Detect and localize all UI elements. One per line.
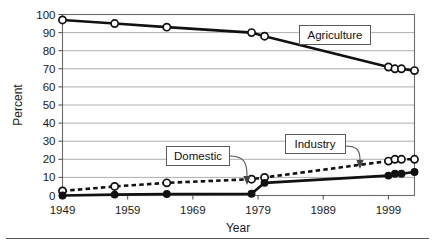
- y-tick-label: 90: [43, 27, 56, 39]
- data-point: [111, 191, 117, 197]
- agriculture-callout-label: Agriculture: [308, 29, 363, 41]
- data-point: [411, 169, 417, 175]
- data-point: [398, 156, 405, 163]
- x-tick-label: 1969: [180, 204, 206, 216]
- data-point: [59, 192, 65, 198]
- y-tick-label: 100: [36, 9, 55, 21]
- y-tick-label: 50: [43, 99, 56, 111]
- data-point: [261, 33, 268, 40]
- x-tick-label: 1979: [245, 204, 271, 216]
- y-tick-label: 40: [43, 117, 56, 129]
- industry-callout-label: Industry: [295, 138, 336, 150]
- data-point: [111, 183, 118, 190]
- data-point: [411, 67, 418, 74]
- data-point: [59, 16, 66, 23]
- annotation-agriculture: Agriculture: [300, 26, 371, 45]
- x-tick-label: 1959: [115, 204, 141, 216]
- y-tick-label: 60: [43, 81, 56, 93]
- data-point: [261, 180, 267, 186]
- y-tick-label: 80: [43, 45, 56, 57]
- line-chart: 0102030405060708090100 19491959196919791…: [0, 0, 435, 246]
- data-point: [398, 65, 405, 72]
- domestic-callout-label: Domestic: [174, 150, 222, 162]
- data-point: [164, 191, 170, 197]
- x-tick-label: 1989: [310, 204, 336, 216]
- y-tick-label: 70: [43, 63, 56, 75]
- data-point: [248, 29, 255, 36]
- data-point: [248, 190, 254, 196]
- y-tick-label: 0: [49, 190, 55, 202]
- data-point: [111, 20, 118, 27]
- y-tick-label: 20: [43, 153, 56, 165]
- y-axis-title: Percent: [11, 84, 25, 126]
- y-tick-label: 10: [43, 171, 56, 183]
- data-point: [398, 171, 404, 177]
- chart-figure: 0102030405060708090100 19491959196919791…: [0, 0, 435, 246]
- x-tick-label: 1949: [50, 204, 76, 216]
- x-axis-title: Year: [226, 221, 250, 235]
- data-point: [385, 172, 391, 178]
- x-tick-label: 1999: [376, 204, 402, 216]
- data-point: [163, 179, 170, 186]
- data-point: [411, 156, 418, 163]
- data-point: [392, 171, 398, 177]
- y-tick-label: 30: [43, 135, 56, 147]
- data-point: [163, 24, 170, 31]
